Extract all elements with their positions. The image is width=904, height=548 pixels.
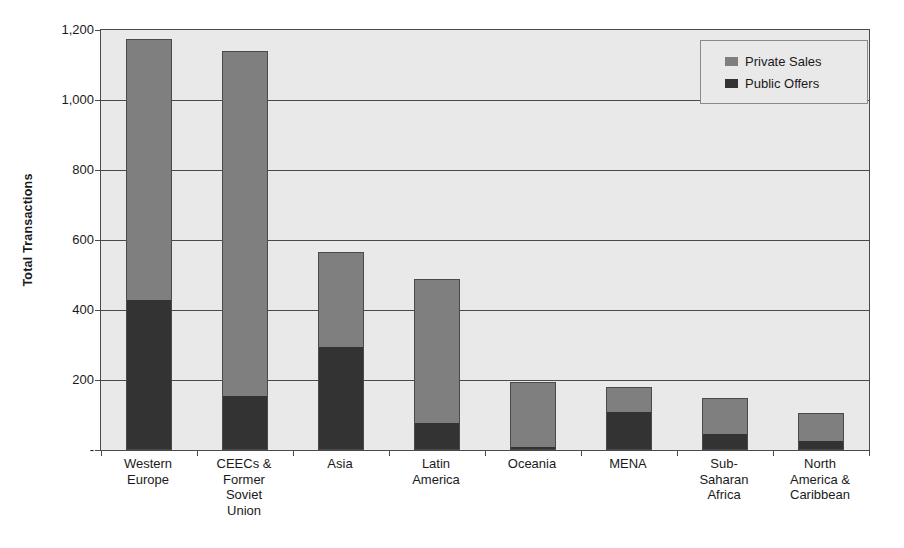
bar-segment[interactable] [414, 279, 460, 423]
bar-segment[interactable] [510, 382, 556, 447]
bar-segment[interactable] [126, 39, 172, 300]
bar-segment[interactable] [798, 413, 844, 441]
legend-label: Public Offers [745, 76, 819, 91]
bar-group[interactable] [222, 51, 268, 450]
x-axis-tick-mark [869, 450, 870, 456]
legend-item[interactable]: Public Offers [725, 72, 867, 94]
bar-group[interactable] [126, 39, 172, 450]
x-axis-tick-label: Asia [292, 456, 388, 472]
legend-label: Private Sales [745, 54, 822, 69]
x-axis-tick-label: Oceania [484, 456, 580, 472]
x-axis-tick-label: Sub- Saharan Africa [676, 456, 772, 503]
x-axis-tick-label: Latin America [388, 456, 484, 487]
bar-segment[interactable] [606, 387, 652, 412]
y-axis-tick-label: 200 [30, 373, 94, 386]
y-axis-tick-label: - [30, 443, 94, 456]
x-axis-tick-label: CEECs & Former Soviet Union [196, 456, 292, 518]
y-axis-tick-label: 1,000 [30, 93, 94, 106]
bar-group[interactable] [510, 382, 556, 450]
y-axis-tick-label: 400 [30, 303, 94, 316]
bar-segment[interactable] [414, 423, 460, 450]
legend-item[interactable]: Private Sales [725, 50, 867, 72]
bar-segment[interactable] [222, 51, 268, 396]
bar-group[interactable] [702, 398, 748, 451]
stacked-bar-chart: Total Transactions -2004006008001,0001,2… [0, 0, 904, 548]
bar-segment[interactable] [606, 412, 652, 451]
bar-group[interactable] [606, 387, 652, 450]
bar-segment[interactable] [702, 398, 748, 435]
x-axis-tick-label: Western Europe [100, 456, 196, 487]
y-axis-tick-label: 1,200 [30, 23, 94, 36]
y-axis-tick-label: 600 [30, 233, 94, 246]
bar-segment[interactable] [222, 396, 268, 450]
bar-segment[interactable] [126, 300, 172, 451]
y-axis-tick-labels: -2004006008001,0001,200 [30, 0, 94, 548]
bar-segment[interactable] [702, 434, 748, 450]
bar-segment[interactable] [318, 252, 364, 347]
bar-group[interactable] [318, 252, 364, 450]
x-axis-tick-label: North America & Caribbean [772, 456, 868, 503]
x-axis-tick-labels: Western EuropeCEECs & Former Soviet Unio… [100, 456, 868, 548]
y-axis-tick-label: 800 [30, 163, 94, 176]
bar-segment[interactable] [510, 447, 556, 451]
legend-swatch-dark [725, 79, 738, 88]
bar-group[interactable] [414, 279, 460, 450]
bar-segment[interactable] [318, 347, 364, 450]
chart-legend: Private SalesPublic Offers [700, 40, 868, 104]
bar-group[interactable] [798, 413, 844, 450]
legend-swatch-light [725, 57, 738, 66]
x-axis-tick-label: MENA [580, 456, 676, 472]
bar-segment[interactable] [798, 441, 844, 450]
